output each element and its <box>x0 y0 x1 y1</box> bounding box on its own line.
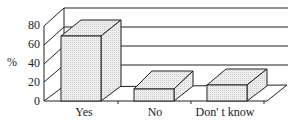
x-label-no: No <box>148 105 163 119</box>
bar-dont-know <box>207 69 267 101</box>
y-tick-20: 20 <box>28 75 40 89</box>
bar-chart-3d: 0 20 40 60 80 % Yes No Don' t know <box>0 0 288 122</box>
bar-yes <box>61 20 121 101</box>
y-tick-60: 60 <box>28 37 40 51</box>
y-axis: 0 20 40 60 80 % <box>7 18 40 108</box>
x-label-dont-know: Don' t know <box>196 105 255 119</box>
y-tick-80: 80 <box>28 18 40 32</box>
y-tick-40: 40 <box>28 56 40 70</box>
y-tick-0: 0 <box>34 94 40 108</box>
bar-no <box>134 71 193 101</box>
x-label-yes: Yes <box>75 105 93 119</box>
y-axis-label: % <box>7 55 17 69</box>
